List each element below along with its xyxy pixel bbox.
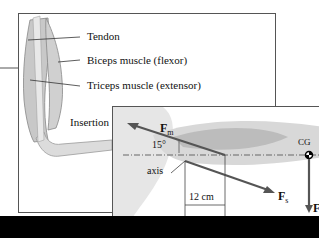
insertion-label: Insertion bbox=[70, 116, 109, 128]
cg-label: CG bbox=[298, 137, 311, 147]
force-muscle-label: Fm bbox=[160, 121, 174, 137]
force-g-arrowhead bbox=[305, 205, 313, 213]
distance-label: 12 cm bbox=[189, 191, 214, 202]
force-g-label: Fg bbox=[313, 201, 319, 217]
force-diagram-panel: Fm 15° axis 12 cm Fs CG Fg bbox=[112, 106, 319, 217]
force-s-label: Fs bbox=[278, 189, 288, 205]
biceps-label: Biceps muscle (flexor) bbox=[87, 54, 187, 66]
triceps-label: Triceps muscle (extensor) bbox=[87, 79, 201, 91]
angle-label: 15° bbox=[152, 139, 166, 150]
force-s-arrow bbox=[185, 161, 271, 191]
biceps-muscle bbox=[46, 18, 63, 130]
biceps-leader bbox=[58, 60, 80, 62]
axis-label: axis bbox=[147, 165, 163, 176]
tendon-label: Tendon bbox=[87, 30, 120, 42]
bottom-black-bar bbox=[0, 216, 319, 238]
axis-leader bbox=[171, 161, 185, 173]
